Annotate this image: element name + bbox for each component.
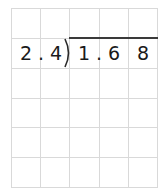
grid-cell	[70, 69, 99, 99]
grid-cell	[12, 99, 41, 129]
grid-cell	[100, 158, 129, 188]
dividend-decimal-point: .	[91, 38, 107, 68]
grid-cell	[12, 9, 41, 39]
grid-cell	[41, 128, 70, 158]
grid-cell	[129, 9, 158, 39]
grid-cell	[100, 69, 129, 99]
grid-cell	[41, 9, 70, 39]
dividend-digit-ones: 1	[76, 38, 92, 68]
grid-cell	[12, 158, 41, 188]
grid-cell	[129, 99, 158, 129]
grid-cell	[12, 69, 41, 99]
grid-cell	[70, 99, 99, 129]
grid-cell	[129, 158, 158, 188]
grid-cell	[129, 128, 158, 158]
divisor-digit-ones: 2	[18, 38, 34, 68]
divisor-decimal-point: .	[33, 38, 49, 68]
grid-cell	[41, 69, 70, 99]
grid-cell	[100, 9, 129, 39]
grid-cell	[100, 99, 129, 129]
grid-cell	[70, 9, 99, 39]
grid-cell	[41, 158, 70, 188]
grid-paper	[11, 8, 158, 188]
grid-cell	[129, 69, 158, 99]
grid-cell	[100, 128, 129, 158]
grid-cell	[41, 99, 70, 129]
grid-cell	[70, 158, 99, 188]
dividend-digit-tenths: 6	[106, 38, 122, 68]
grid-cell	[12, 128, 41, 158]
grid-cell	[70, 128, 99, 158]
dividend-digit-hundredths: 8	[135, 38, 151, 68]
long-division-bracket-icon	[62, 38, 72, 68]
